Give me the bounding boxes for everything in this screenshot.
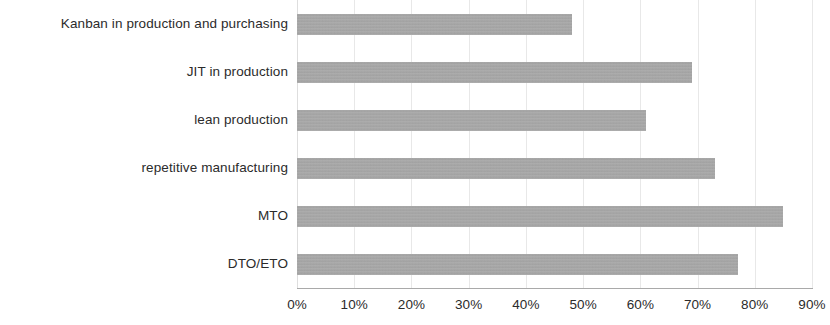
- gridline: [812, 0, 813, 288]
- category-label: lean production: [0, 112, 288, 128]
- bar: [297, 158, 715, 179]
- value-axis-tick-label: 60%: [627, 296, 654, 314]
- value-axis-tick-label: 20%: [398, 296, 425, 314]
- value-axis-tick-label: 90%: [798, 296, 825, 314]
- value-axis-tick-label: 70%: [684, 296, 711, 314]
- value-axis-tick-label: 10%: [341, 296, 368, 314]
- value-axis-tick-label: 30%: [455, 296, 482, 314]
- value-axis-line: [297, 288, 813, 289]
- bar: [297, 62, 692, 83]
- value-axis-tick-label: 0%: [287, 296, 307, 314]
- bar: [297, 206, 783, 227]
- bar: [297, 110, 646, 131]
- category-label: Kanban in production and purchasing: [0, 16, 288, 32]
- value-axis-tick-label: 50%: [569, 296, 596, 314]
- value-axis-tick-label: 80%: [741, 296, 768, 314]
- category-axis-labels: Kanban in production and purchasing JIT …: [0, 0, 288, 288]
- category-label: MTO: [0, 208, 288, 224]
- category-label: DTO/ETO: [0, 256, 288, 272]
- bar-series: [297, 0, 812, 288]
- category-label: JIT in production: [0, 64, 288, 80]
- bar: [297, 14, 572, 35]
- value-axis-tick-label: 40%: [512, 296, 539, 314]
- category-label: repetitive manufacturing: [0, 160, 288, 176]
- bar: [297, 254, 738, 275]
- plot-area: [297, 0, 812, 288]
- value-axis-labels: 0%10%20%30%40%50%60%70%80%90%: [0, 296, 830, 320]
- horizontal-bar-chart: Kanban in production and purchasing JIT …: [0, 0, 830, 325]
